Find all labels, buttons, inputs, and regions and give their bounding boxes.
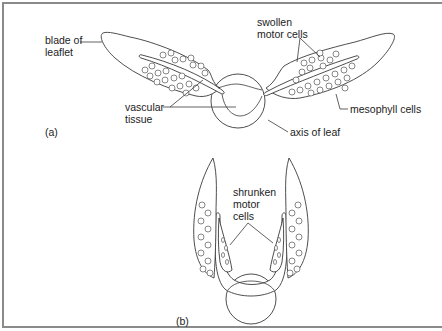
label-shrunken-line2: motor <box>233 198 260 210</box>
axis-leader-line <box>268 120 288 132</box>
panel-b: shrunken motor cells (b) <box>176 158 308 327</box>
left-inner-lobe <box>218 218 232 272</box>
panel-a: blade of leaflet swollen motor cells vas… <box>45 16 421 138</box>
right-inner-lobe <box>270 218 284 272</box>
mesophyll-leader-line <box>336 94 348 109</box>
label-blade-line1: blade of <box>45 34 82 46</box>
label-vascular-line1: vascular <box>125 101 165 113</box>
shrunken-leader-line-2 <box>248 223 273 243</box>
label-mesophyll: mesophyll cells <box>350 103 421 115</box>
panel-b-tag: (b) <box>176 315 189 327</box>
panel-a-tag: (a) <box>45 126 58 138</box>
label-shrunken-line1: shrunken <box>233 186 276 198</box>
label-axis: axis of leaf <box>290 126 340 138</box>
label-swollen-line2: motor cells <box>257 28 308 40</box>
label-vascular-line2: tissue <box>125 113 153 125</box>
label-swollen-line1: swollen <box>257 16 292 28</box>
label-blade-line2: leaflet <box>45 46 73 58</box>
axis-of-leaf-ring-outer <box>211 74 265 128</box>
shrunken-leader-line-1 <box>230 223 248 245</box>
label-shrunken-line3: cells <box>233 210 254 222</box>
